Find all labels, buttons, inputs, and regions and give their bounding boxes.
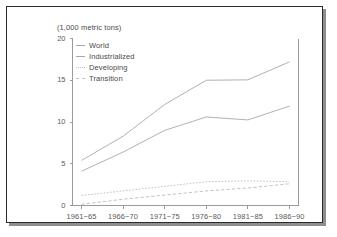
data-series <box>82 62 290 204</box>
x-tick-label: 1971−75 <box>143 212 187 221</box>
y-tick-label: 10 <box>50 117 66 126</box>
tick-marks <box>70 39 290 209</box>
series-line-industrialized <box>82 106 290 171</box>
x-tick-label: 1986−90 <box>268 212 312 221</box>
series-line-world <box>82 62 290 161</box>
y-tick-label: 0 <box>50 201 66 210</box>
line-chart: (1,000 metric tons) World Industrialized… <box>0 0 337 237</box>
y-tick-label: 5 <box>50 159 66 168</box>
x-tick-label: 1966−70 <box>101 212 145 221</box>
x-tick-label: 1981−85 <box>226 212 270 221</box>
y-tick-label: 15 <box>50 75 66 84</box>
y-tick-label: 20 <box>50 34 66 43</box>
x-tick-label: 1961−65 <box>60 212 104 221</box>
series-line-transition <box>82 184 290 204</box>
axes <box>73 39 299 206</box>
x-tick-label: 1976−80 <box>184 212 228 221</box>
